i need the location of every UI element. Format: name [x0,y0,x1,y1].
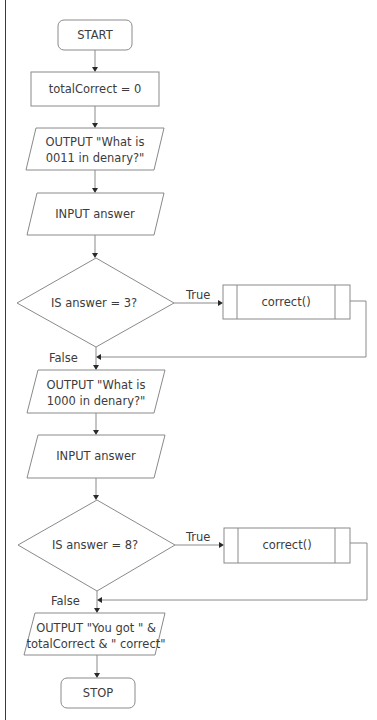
output3-line1: OUTPUT "You got " & [36,621,156,635]
init-process: totalCorrect = 0 [31,72,159,106]
arrowhead-icon [92,188,98,193]
arrowhead-icon [92,253,98,258]
input1-io: INPUT answer [27,193,164,235]
stop-terminator: STOP [61,678,135,708]
output2-line2: 1000 in denary?" [47,394,146,408]
input2-label: INPUT answer [56,449,136,463]
init-label: totalCorrect = 0 [49,82,142,96]
sub2-label: correct() [262,538,311,552]
arrowhead-icon [219,542,224,548]
arrowhead-icon [218,300,223,306]
input1-label: INPUT answer [55,207,135,221]
stop-label: STOP [83,686,113,700]
sub1-predefined-process: correct() [223,285,350,319]
arrowhead-icon [92,67,98,72]
start-terminator: START [58,20,132,50]
decision2-label: IS answer = 8? [52,538,138,552]
output2-line1: OUTPUT "What is [47,378,146,392]
decision1-label: IS answer = 3? [51,296,137,310]
flowchart: START totalCorrect = 0 OUTPUT "What is 0… [0,0,377,720]
arrowhead-icon [93,430,99,435]
decision1-true-label: True [185,288,210,302]
sub2-predefined-process: correct() [224,528,350,563]
decision2: IS answer = 8? [18,500,175,591]
arrowhead-icon [93,365,99,370]
decision1-false-label: False [49,351,78,365]
sub1-label: correct() [261,295,310,309]
arrowhead-icon [93,495,99,500]
start-label: START [77,28,113,42]
input2-io: INPUT answer [27,435,165,478]
output2-io: OUTPUT "What is 1000 in denary?" [27,370,165,413]
output3-io: OUTPUT "You got " & totalCorrect & " cor… [24,613,166,655]
arrowhead-icon [94,608,100,613]
decision1: IS answer = 3? [17,258,174,347]
decision2-false-label: False [51,594,80,608]
output1-line1: OUTPUT "What is [46,135,145,149]
arrowhead-icon [94,673,100,678]
arrowhead-icon [97,597,102,603]
output3-line2: totalCorrect & " correct" [26,637,165,651]
decision2-true-label: True [185,530,210,544]
output1-line2: 0011 in denary?" [46,151,145,165]
output1-io: OUTPUT "What is 0011 in denary?" [26,128,164,170]
arrowhead-icon [96,354,101,360]
arrowhead-icon [92,123,98,128]
